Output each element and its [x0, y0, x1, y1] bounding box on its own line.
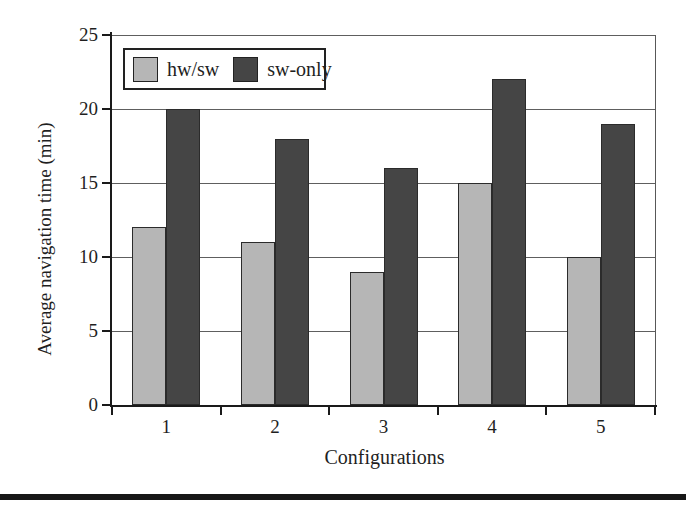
x-tick-1 — [220, 407, 222, 415]
gridline-25 — [112, 35, 655, 36]
bar-hw-sw-config-5 — [567, 257, 601, 405]
y-tick-label-10: 10 — [56, 245, 98, 269]
y-axis-line — [110, 32, 112, 407]
bar-hw-sw-config-3 — [350, 272, 384, 405]
y-tick-label-5: 5 — [56, 319, 98, 343]
bar-hw-sw-config-1 — [132, 227, 166, 405]
bar-hw-sw-config-4 — [458, 183, 492, 405]
y-tick-label-25: 25 — [56, 23, 98, 47]
bottom-rule — [0, 494, 686, 500]
y-tick-label-20: 20 — [56, 97, 98, 121]
legend-swatch-sw-only — [233, 57, 258, 82]
x-tick-5 — [654, 407, 656, 415]
legend: hw/sw sw-only — [123, 48, 326, 90]
bar-sw-only-config-3 — [384, 168, 418, 405]
figure-page: Average navigation time (min) hw/sw sw-o… — [0, 0, 689, 510]
bar-sw-only-config-4 — [492, 79, 526, 405]
plot-right-border — [655, 35, 656, 405]
legend-label-sw-only: sw-only — [267, 58, 331, 80]
x-tick-label-1: 1 — [144, 415, 188, 439]
y-tick-label-15: 15 — [56, 171, 98, 195]
x-tick-label-5: 5 — [579, 415, 623, 439]
x-tick-label-3: 3 — [362, 415, 406, 439]
x-tick-0 — [111, 407, 113, 415]
legend-swatch-hw-sw — [133, 57, 158, 82]
y-tick-5 — [102, 330, 110, 332]
x-tick-4 — [545, 407, 547, 415]
x-tick-2 — [328, 407, 330, 415]
legend-label-hw-sw: hw/sw — [167, 58, 219, 80]
x-tick-label-2: 2 — [253, 415, 297, 439]
y-tick-0 — [102, 404, 110, 406]
y-axis-title: Average navigation time (min) — [34, 122, 56, 355]
y-tick-10 — [102, 256, 110, 258]
x-tick-label-4: 4 — [470, 415, 514, 439]
bar-sw-only-config-5 — [601, 124, 635, 405]
y-tick-15 — [102, 182, 110, 184]
y-tick-20 — [102, 108, 110, 110]
x-axis-line — [110, 405, 657, 407]
x-axis-title: Configurations — [113, 446, 656, 469]
bar-sw-only-config-1 — [166, 109, 200, 405]
bar-sw-only-config-2 — [275, 139, 309, 405]
plot-area: hw/sw sw-only 051015202512345 — [112, 35, 655, 405]
y-tick-label-0: 0 — [56, 393, 98, 417]
x-tick-3 — [437, 407, 439, 415]
bar-hw-sw-config-2 — [241, 242, 275, 405]
y-tick-25 — [102, 34, 110, 36]
